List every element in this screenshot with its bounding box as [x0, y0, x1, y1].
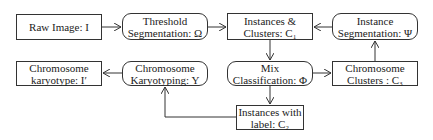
node-chromosome-karyotype: Chromosome karyotype: I′ [16, 61, 102, 86]
node-label: Mix [261, 62, 279, 74]
node-raw-image: Raw Image: I [16, 14, 102, 40]
node-instances-clusters: Instances & Clusters: C₁ [227, 13, 313, 40]
node-label: Karyotyping: Y [131, 74, 200, 86]
node-label: Clusters : C₃ [347, 74, 403, 86]
node-instance-segmentation: Instance Segmentation: Ψ [332, 13, 418, 40]
node-instances-with-label: Instances with label: C₂ [236, 105, 304, 130]
node-label: Classification: Φ [233, 74, 307, 86]
node-chromosome-clusters: Chromosome Clusters : C₃ [332, 61, 418, 86]
edge-labeled-to-karyotyping [165, 87, 236, 117]
node-label: Threshold [143, 15, 188, 27]
node-mix-classification: Mix Classification: Φ [227, 61, 313, 86]
node-label: Instance [357, 15, 394, 27]
node-label: Instances with [238, 106, 301, 118]
node-label: Raw Image: I [29, 21, 89, 33]
node-label: Clusters: C₁ [243, 27, 296, 39]
node-label: Chromosome [135, 62, 194, 74]
node-label: Segmentation: Ω [128, 27, 202, 39]
node-chromosome-karyotyping: Chromosome Karyotyping: Y [122, 61, 208, 86]
node-label: Chromosome [29, 62, 88, 74]
node-label: karyotype: I′ [31, 74, 87, 86]
node-label: Segmentation: Ψ [338, 27, 412, 39]
node-label: Chromosome [345, 62, 404, 74]
node-label: label: C₂ [251, 118, 289, 130]
node-threshold-segmentation: Threshold Segmentation: Ω [122, 13, 208, 40]
node-label: Instances & [244, 15, 296, 27]
